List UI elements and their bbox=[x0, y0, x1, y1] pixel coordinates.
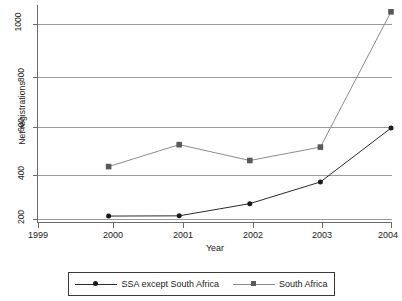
x-tick-mark-2001 bbox=[183, 223, 184, 228]
legend-marker-square-icon bbox=[251, 281, 256, 286]
x-tick-mark-2002 bbox=[253, 223, 254, 228]
gridline-800 bbox=[38, 77, 392, 78]
x-tick-label-1999: 1999 bbox=[13, 230, 63, 240]
y-tick-label-200: 200 bbox=[16, 200, 26, 234]
legend-marker-circle-icon bbox=[93, 281, 98, 286]
y-tick-label-800: 800 bbox=[16, 58, 26, 92]
x-tick-mark-1999 bbox=[38, 223, 39, 228]
gridline-1000 bbox=[38, 24, 392, 25]
line-chart-figure: Net registrations 200 400 600 800 1000 1… bbox=[0, 0, 402, 301]
x-tick-label-2001: 2001 bbox=[158, 230, 208, 240]
x-tick-mark-2000 bbox=[113, 223, 114, 228]
legend-swatch-south-africa bbox=[233, 280, 275, 289]
legend-label-south-africa: South Africa bbox=[279, 279, 328, 289]
chart-legend: SSA except South Africa South Africa bbox=[68, 272, 335, 296]
x-tick-label-2002: 2002 bbox=[228, 230, 278, 240]
legend-entry-south-africa[interactable]: South Africa bbox=[233, 279, 328, 289]
y-tick-label-600: 600 bbox=[16, 108, 26, 142]
legend-swatch-ssa bbox=[75, 280, 117, 289]
legend-label-ssa: SSA except South Africa bbox=[121, 279, 219, 289]
x-tick-mark-2004 bbox=[391, 223, 392, 228]
gridline-400 bbox=[38, 175, 392, 176]
x-tick-label-2000: 2000 bbox=[88, 230, 138, 240]
x-axis-line bbox=[37, 222, 392, 223]
y-tick-label-400: 400 bbox=[16, 156, 26, 190]
x-tick-mark-2003 bbox=[322, 223, 323, 228]
x-tick-label-2004: 2004 bbox=[363, 230, 402, 240]
y-axis-line bbox=[37, 5, 38, 223]
x-tick-label-2003: 2003 bbox=[297, 230, 347, 240]
gridline-200 bbox=[38, 219, 392, 220]
gridline-600 bbox=[38, 127, 392, 128]
y-tick-label-1000: 1000 bbox=[13, 5, 23, 39]
plot-area bbox=[38, 5, 392, 222]
x-axis-title: Year bbox=[38, 243, 392, 253]
legend-entry-ssa[interactable]: SSA except South Africa bbox=[75, 279, 219, 289]
